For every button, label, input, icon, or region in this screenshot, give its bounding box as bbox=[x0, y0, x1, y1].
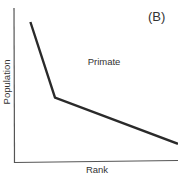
panel-label: (B) bbox=[148, 9, 165, 24]
y-axis-label: Population bbox=[1, 60, 12, 105]
primate-distribution-line bbox=[30, 22, 178, 144]
x-axis bbox=[14, 161, 178, 163]
x-axis-label: Rank bbox=[86, 164, 108, 175]
y-axis bbox=[14, 8, 15, 163]
rank-size-chart: (B) Primate Rank Population bbox=[0, 0, 178, 176]
curve-annotation: Primate bbox=[88, 56, 121, 67]
